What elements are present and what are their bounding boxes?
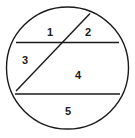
region-label-5: 5	[65, 106, 71, 117]
region-label-3: 3	[22, 55, 28, 66]
region-label-4: 4	[75, 70, 81, 81]
circle-diagram	[0, 0, 135, 138]
region-label-2: 2	[85, 27, 91, 38]
geometry-figure: 1 2 3 4 5	[0, 0, 135, 138]
region-label-1: 1	[47, 27, 53, 38]
